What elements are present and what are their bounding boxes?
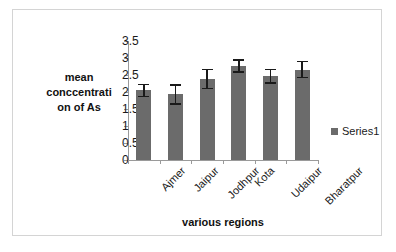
error-bar-cap-top bbox=[297, 61, 308, 63]
error-bar-udaipur bbox=[263, 69, 278, 84]
error-bar-cap-bottom bbox=[297, 77, 308, 79]
legend-swatch-series1 bbox=[331, 128, 338, 135]
bar-bharatpur[interactable] bbox=[295, 70, 310, 160]
error-bar-kota bbox=[231, 59, 246, 73]
x-tick-1 bbox=[160, 160, 161, 164]
category-label-jaipur: Jaipur bbox=[191, 165, 220, 194]
error-bar-cap-bottom bbox=[233, 71, 244, 73]
x-tick-4 bbox=[255, 160, 256, 164]
error-bar-cap-bottom bbox=[138, 96, 149, 98]
error-bar-cap-bottom bbox=[202, 88, 213, 90]
x-tick-3 bbox=[223, 160, 224, 164]
y-axis-title-line-3: on of As bbox=[41, 100, 117, 115]
category-label-bharatpur: Bharatpur bbox=[323, 165, 365, 207]
x-tick-5 bbox=[286, 160, 287, 164]
error-bar-jodhpur bbox=[200, 69, 215, 89]
legend-label-series1: Series1 bbox=[342, 125, 379, 137]
y-axis-title: mean conccentrati on of As bbox=[41, 70, 117, 115]
category-label-udaipur: Udaipur bbox=[289, 165, 324, 200]
error-bar-cap-top bbox=[265, 69, 276, 71]
error-bar-stem bbox=[301, 61, 303, 79]
bar-udaipur[interactable] bbox=[263, 76, 278, 160]
y-axis-title-line-1: mean bbox=[41, 70, 117, 85]
bar-kota[interactable] bbox=[231, 66, 246, 160]
category-label-ajmer: Ajmer bbox=[159, 165, 187, 193]
chart-legend: Series1 bbox=[331, 125, 379, 137]
error-bar-cap-bottom bbox=[265, 82, 276, 84]
x-tick-6 bbox=[318, 160, 319, 164]
chart-frame: mean conccentrati on of As 00.511.522.53… bbox=[12, 9, 382, 236]
error-bar-ajmer bbox=[136, 84, 151, 98]
y-axis-title-line-2: conccentrati bbox=[41, 85, 117, 100]
bar-jodhpur[interactable] bbox=[200, 79, 215, 160]
error-bar-stem bbox=[175, 84, 177, 104]
chart-page: mean conccentrati on of As 00.511.522.53… bbox=[0, 0, 396, 252]
bar-ajmer[interactable] bbox=[136, 90, 151, 160]
error-bar-cap-bottom bbox=[170, 103, 181, 105]
error-bar-cap-top bbox=[202, 69, 213, 71]
error-bar-jaipur bbox=[168, 84, 183, 104]
error-bar-cap-top bbox=[170, 84, 181, 86]
error-bar-bharatpur bbox=[295, 61, 310, 79]
x-tick-0 bbox=[128, 160, 129, 164]
error-bar-cap-top bbox=[233, 59, 244, 61]
error-bar-stem bbox=[206, 69, 208, 89]
x-axis-title: various regions bbox=[133, 216, 313, 228]
error-bar-cap-top bbox=[138, 84, 149, 86]
plot-area: 00.511.522.533.5 AjmerJaipurJodhpurKotaU… bbox=[128, 41, 318, 160]
x-tick-2 bbox=[191, 160, 192, 164]
